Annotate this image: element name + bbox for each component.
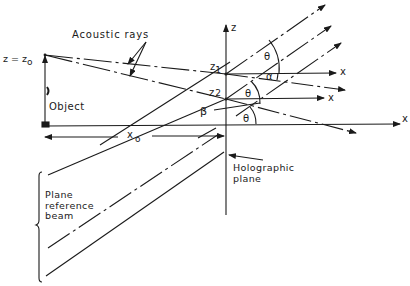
holographic-plane-label-1: Holographic bbox=[233, 162, 294, 173]
alpha-label: α bbox=[266, 71, 273, 82]
object-base bbox=[42, 122, 49, 127]
reference-ray-1-cont bbox=[226, 5, 325, 74]
x-axis-z1-line bbox=[226, 73, 336, 74]
z2-point bbox=[224, 97, 227, 100]
reference-beam-label-1: Plane bbox=[45, 189, 73, 200]
x-axis-label: x bbox=[402, 113, 408, 124]
x-axis-z1-label: x bbox=[340, 66, 346, 77]
reference-beam-brace bbox=[36, 172, 42, 282]
object-top-point bbox=[44, 54, 47, 57]
holographic-plane-label-2: plane bbox=[233, 173, 261, 184]
theta-label-3: θ bbox=[243, 113, 249, 124]
x0-label: xo bbox=[127, 129, 141, 144]
reference-beam-label-3: beam bbox=[45, 210, 74, 221]
acoustic-ray-2 bbox=[45, 55, 226, 99]
z1-point bbox=[224, 72, 227, 75]
holographic-plane-pointer bbox=[229, 155, 263, 160]
reference-ray-3 bbox=[48, 134, 219, 248]
theta-arc-2 bbox=[251, 81, 260, 104]
theta-label-1: θ bbox=[264, 51, 270, 62]
reference-ray-3-cont bbox=[236, 43, 341, 116]
x-axis-z2-label: x bbox=[328, 92, 334, 103]
reference-ray-1 bbox=[100, 62, 230, 145]
object-mark bbox=[47, 87, 49, 95]
acoustic-rays-label: Acoustic rays bbox=[72, 29, 149, 40]
theta-arc-3 bbox=[250, 107, 256, 124]
z2-label: z2 bbox=[209, 87, 221, 98]
theta-label-2: θ bbox=[245, 88, 251, 99]
x-axis-z2-line bbox=[226, 98, 324, 99]
x-axis-line bbox=[45, 124, 400, 126]
beta-label: β bbox=[200, 105, 207, 118]
z-eq-z0-label: z = zo bbox=[3, 53, 33, 67]
z-axis-label: z bbox=[231, 22, 236, 33]
acoustic-holography-diagram: Acoustic rays z = zo Object xo z x x x z… bbox=[0, 0, 410, 286]
object-label: Object bbox=[49, 101, 85, 112]
